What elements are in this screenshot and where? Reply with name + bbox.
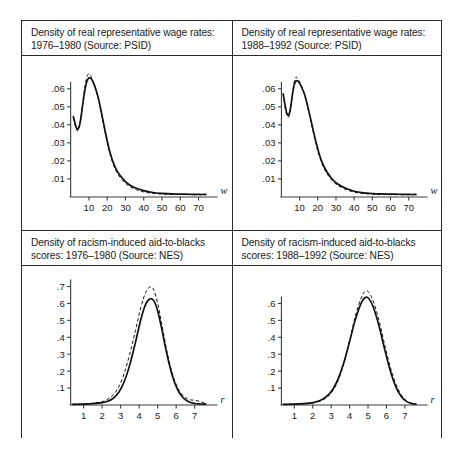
panel-title-racism-1988-1992: Density of racism-induced aid-to-blacks … (233, 231, 442, 266)
svg-text:5: 5 (365, 410, 370, 421)
svg-text:70: 70 (193, 202, 204, 213)
svg-text:40: 40 (348, 202, 359, 213)
svg-text:5: 5 (155, 410, 160, 421)
svg-text:.5: .5 (267, 314, 275, 325)
svg-text:1: 1 (81, 410, 86, 421)
plot-svg-2: .1.2.3.4.5.6.71234567r (22, 266, 232, 438)
svg-text:.1: .1 (57, 382, 65, 393)
svg-text:w: w (221, 186, 228, 197)
svg-text:20: 20 (102, 202, 113, 213)
svg-text:.03: .03 (51, 137, 64, 148)
svg-text:50: 50 (367, 202, 378, 213)
svg-text:6: 6 (174, 410, 179, 421)
svg-text:50: 50 (157, 202, 168, 213)
plot-area-wage-1976-1980: .01.02.03.04.05.0610203040506070w (22, 56, 232, 230)
plot-svg-3: .1.2.3.4.5.61234567r (233, 266, 442, 438)
svg-text:3: 3 (328, 410, 333, 421)
svg-text:.4: .4 (57, 331, 66, 342)
panel-wage-1988-1992: Density of real representative wage rate… (232, 21, 442, 230)
svg-text:.2: .2 (57, 365, 65, 376)
plot-area-racism-1988-1992: .1.2.3.4.5.61234567r (233, 266, 442, 438)
svg-text:10: 10 (294, 202, 305, 213)
svg-text:.2: .2 (267, 365, 275, 376)
panel-wage-1976-1980: Density of real representative wage rate… (22, 21, 232, 230)
svg-text:20: 20 (312, 202, 323, 213)
svg-text:40: 40 (138, 202, 149, 213)
svg-text:.03: .03 (262, 137, 275, 148)
svg-text:w: w (430, 185, 437, 196)
svg-text:.04: .04 (51, 119, 65, 130)
svg-text:.5: .5 (57, 315, 65, 326)
svg-text:6: 6 (383, 410, 388, 421)
svg-text:10: 10 (84, 202, 95, 213)
svg-text:30: 30 (330, 202, 341, 213)
svg-text:60: 60 (385, 202, 396, 213)
svg-text:r: r (221, 393, 226, 404)
svg-text:2: 2 (310, 410, 315, 421)
svg-text:1: 1 (291, 410, 296, 421)
svg-text:4: 4 (137, 410, 143, 421)
panel-title-wage-1976-1980: Density of real representative wage rate… (22, 21, 232, 56)
svg-text:.04: .04 (262, 119, 275, 130)
panel-racism-1988-1992: Density of racism-induced aid-to-blacks … (232, 230, 442, 438)
svg-text:.05: .05 (262, 101, 275, 112)
plot-svg-0: .01.02.03.04.05.0610203040506070w (22, 56, 232, 230)
svg-text:70: 70 (403, 202, 414, 213)
svg-text:7: 7 (402, 410, 407, 421)
svg-text:.1: .1 (267, 382, 275, 393)
svg-text:4: 4 (346, 410, 351, 421)
plot-area-wage-1988-1992: .01.02.03.04.05.0610203040506070w (233, 56, 442, 230)
svg-text:.3: .3 (267, 348, 275, 359)
svg-text:.05: .05 (51, 101, 64, 112)
svg-text:.02: .02 (262, 155, 275, 166)
svg-text:.02: .02 (51, 155, 64, 166)
svg-text:.06: .06 (262, 83, 275, 94)
svg-text:.7: .7 (57, 281, 65, 292)
svg-text:60: 60 (175, 202, 186, 213)
svg-text:.06: .06 (51, 83, 64, 94)
svg-text:r: r (430, 393, 435, 404)
panel-title-wage-1988-1992: Density of real representative wage rate… (233, 21, 442, 56)
plot-svg-1: .01.02.03.04.05.0610203040506070w (233, 56, 442, 230)
svg-text:.4: .4 (267, 331, 275, 342)
svg-text:.3: .3 (57, 348, 65, 359)
svg-text:7: 7 (192, 410, 197, 421)
svg-text:.01: .01 (262, 173, 275, 184)
svg-text:.6: .6 (57, 298, 65, 309)
svg-text:30: 30 (120, 202, 131, 213)
svg-text:3: 3 (118, 410, 123, 421)
panel-racism-1976-1980: Density of racism-induced aid-to-blacks … (22, 230, 232, 438)
panel-title-racism-1976-1980: Density of racism-induced aid-to-blacks … (22, 231, 232, 266)
plot-area-racism-1976-1980: .1.2.3.4.5.6.71234567r (22, 266, 232, 438)
figure-frame: Density of real representative wage rate… (21, 20, 442, 438)
svg-text:.01: .01 (51, 173, 64, 184)
svg-text:.6: .6 (267, 298, 275, 309)
svg-text:2: 2 (99, 410, 104, 421)
